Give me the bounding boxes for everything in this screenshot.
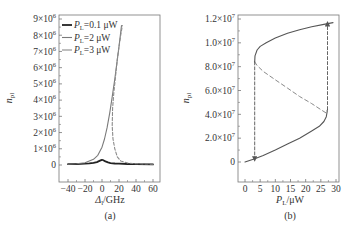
panel-label-b: (b) — [284, 210, 296, 222]
series-group-a — [68, 26, 153, 165]
series-group-b — [245, 23, 333, 162]
y-tick-label: 1×106 — [33, 142, 57, 154]
legend-label: PL=3 μW — [73, 45, 110, 56]
x-tick-label: 30 — [331, 184, 341, 194]
series-line-b-2 — [255, 23, 333, 62]
y-axis-a: 01×1062×1063×1064×1065×1066×1067×1068×10… — [33, 12, 62, 170]
x-axis-title-b: PL/μW — [275, 194, 305, 207]
y-tick-label: 4×106 — [33, 93, 57, 105]
x-tick-label: −40 — [61, 184, 76, 194]
x-tick-label: 0 — [243, 184, 248, 194]
y-tick-label: 9×106 — [33, 12, 57, 24]
chart-panel-a: 01×1062×1063×1064×1065×1066×1067×1068×10… — [3, 12, 160, 222]
y-axis-title-a: npl — [3, 93, 16, 104]
x-tick-label: 40 — [131, 184, 141, 194]
y-tick-label: 4.0×107 — [205, 108, 236, 120]
y-tick-label: 2×106 — [33, 126, 57, 138]
chart-panel-b: 02.0×1074.0×1076.0×1078.0×1071.0×1071.2×… — [180, 12, 341, 222]
legend-label: PL=2 μW — [73, 33, 110, 44]
panel-label-a: (a) — [104, 210, 115, 222]
x-tick-label: 60 — [148, 184, 158, 194]
y-tick-label: 1.2×107 — [205, 12, 236, 24]
plot-frame-b — [238, 15, 339, 182]
y-tick-label: 2.0×107 — [205, 131, 236, 143]
y-tick-label: 6.0×107 — [205, 84, 236, 96]
figure: 01×1062×1063×1064×1065×1066×1067×1068×10… — [0, 0, 350, 228]
x-tick-label: 20 — [114, 184, 124, 194]
x-tick-label: 0 — [100, 184, 105, 194]
x-tick-label: 10 — [271, 184, 281, 194]
x-tick-label: 25 — [316, 184, 326, 194]
series-line-b-1 — [255, 62, 328, 113]
y-tick-label: 1.0×107 — [205, 36, 236, 48]
x-tick-label: −20 — [78, 184, 93, 194]
x-axis-title-a: Δl/GHz — [94, 194, 125, 207]
series-line-b-0 — [245, 110, 328, 162]
y-tick-label: 8.0×107 — [205, 60, 236, 72]
x-tick-label: 15 — [286, 184, 296, 194]
x-axis-b: 051015202530 — [243, 179, 341, 194]
y-tick-label: 7×106 — [33, 45, 57, 57]
series-line-a-2 — [112, 26, 153, 165]
y-tick-label: 8×106 — [33, 29, 57, 41]
legend-label: PL=0.1 μW — [73, 20, 117, 31]
x-axis-a: −40−200204060 — [61, 179, 158, 194]
y-tick-label: 5×106 — [33, 77, 57, 89]
y-tick-label: 0 — [51, 160, 56, 170]
x-tick-label: 20 — [301, 184, 311, 194]
legend-a: PL=0.1 μWPL=2 μWPL=3 μW — [62, 20, 117, 56]
y-tick-label: 0 — [230, 157, 235, 167]
y-tick-label: 6×106 — [33, 61, 57, 73]
x-tick-label: 5 — [258, 184, 263, 194]
y-axis-b: 02.0×1074.0×1076.0×1078.0×1071.0×1071.2×… — [205, 12, 241, 167]
y-tick-label: 3×106 — [33, 110, 57, 122]
y-axis-title-b: npl — [180, 93, 193, 104]
